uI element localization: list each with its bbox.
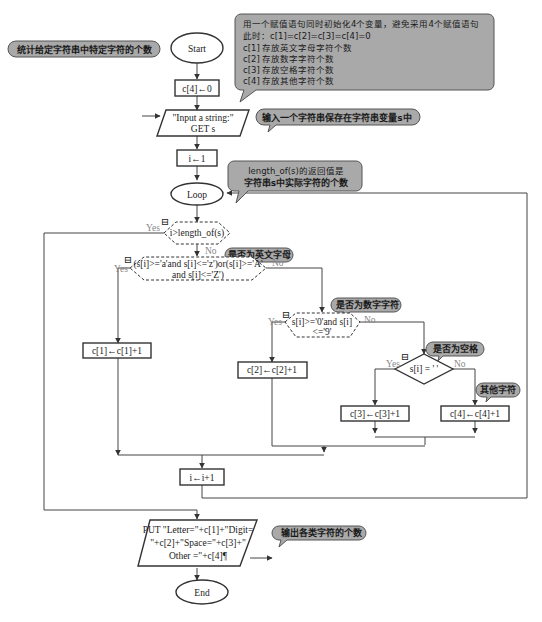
space-condition-decision[interactable]: s[i] = ' ' Yes No ⊟	[386, 352, 466, 384]
output-line-1: PUT "Letter="+c[1]+"Digit=	[143, 525, 254, 535]
length-note-bubble: length_of(s)的返回值是 字符串s中实际字符的个数	[228, 161, 362, 203]
inc-c1-box[interactable]: c[1]←c[1]+1	[83, 343, 151, 358]
length-note-line: 字符串s中实际字符的个数	[244, 177, 349, 188]
init-note-line: c[1] 存放英文字母字符个数	[243, 43, 352, 53]
output-note-bubble: 输出各类字符的个数	[272, 526, 366, 547]
letter-condition-decision[interactable]: (s[i]>='a'and s[i]<='z')or(s[i]>='A' and…	[114, 255, 284, 281]
init-note-line: 用一个赋值语句同时初始化4个变量，避免采用4个赋值语句	[243, 19, 479, 29]
collapse-icon[interactable]: ⊟	[282, 310, 290, 320]
collapse-icon[interactable]: ⊟	[161, 217, 169, 227]
inc-c3-box[interactable]: c[3]←c[3]+1	[341, 406, 409, 421]
end-label: End	[194, 588, 210, 598]
yes-label: Yes	[386, 359, 400, 369]
input-io-box[interactable]: "Input a string:" GET s	[157, 110, 249, 136]
inc-c1-label: c[1]←c[1]+1	[92, 346, 142, 356]
start-terminal[interactable]: Start	[171, 33, 223, 63]
no-label: No	[272, 258, 284, 268]
other-note-text: 其他字符	[480, 384, 516, 395]
start-label: Start	[188, 44, 206, 54]
loop-terminal[interactable]: Loop	[171, 183, 223, 205]
init-note-bubble: 用一个赋值语句同时初始化4个变量，避免采用4个赋值语句 此时：c[1]=c[2]…	[235, 14, 494, 102]
init-process-box[interactable]: c[4]←0	[175, 80, 219, 96]
input-line-2: GET s	[191, 124, 216, 134]
assign-i-box[interactable]: i←1	[177, 150, 217, 166]
inc-c4-box[interactable]: c[4]←c[4]+1	[441, 406, 509, 421]
loop-label: Loop	[187, 190, 207, 200]
output-note-text: 输出各类字符的个数	[281, 527, 363, 538]
length-note-line: length_of(s)的返回值是	[248, 166, 344, 176]
inc-c4-label: c[4]←c[4]+1	[450, 409, 500, 419]
flowchart-canvas: 统计给定字符串中特定字符的个数 Start 用一个赋值语句同时初始化4个变量，避…	[0, 0, 542, 622]
letter-condition-line-1: (s[i]>='a'and s[i]<='z')or(s[i]>='A'	[133, 259, 262, 270]
yes-label: Yes	[114, 264, 128, 274]
letter-condition-line-2: and s[i]<='Z')	[172, 270, 224, 281]
digit-note-text: 是否为数字字符	[335, 299, 399, 310]
increment-i-box[interactable]: i←i+1	[180, 469, 224, 485]
output-line-2: "+c[2]+"Space="+c[3]+"	[150, 538, 246, 548]
no-label: No	[205, 246, 217, 256]
space-note-text: 是否为空格	[432, 343, 479, 354]
inc-c2-label: c[2]←c[2]+1	[247, 365, 297, 375]
digit-condition-line-1: s[i]>='0'and s[i]	[292, 317, 352, 327]
no-label: No	[364, 315, 376, 325]
no-label: No	[454, 359, 466, 369]
init-note-line: c[2] 存放数字字符个数	[243, 54, 334, 64]
input-note-bubble: 输入一个字符串保存在字符串变量s中	[256, 109, 420, 132]
length-condition-decision[interactable]: i>length_of(s) Yes No ⊟	[146, 217, 230, 256]
space-condition-label: s[i] = ' '	[410, 364, 439, 374]
end-terminal[interactable]: End	[176, 580, 228, 604]
digit-condition-decision[interactable]: s[i]>='0'and s[i] <='9' Yes No ⊟	[268, 310, 376, 337]
input-note-text: 输入一个字符串保存在字符串变量s中	[262, 112, 411, 123]
yes-label: Yes	[146, 223, 160, 233]
input-line-1: "Input a string:"	[172, 113, 233, 123]
digit-condition-line-2: <='9'	[313, 327, 332, 337]
inc-c2-box[interactable]: c[2]←c[2]+1	[238, 362, 307, 378]
increment-i-label: i←i+1	[190, 473, 215, 483]
output-line-3: Other ="+c[4]¶	[169, 551, 228, 561]
init-label: c[4]←0	[182, 84, 212, 94]
init-note-line: 此时：c[1]=c[2]=c[3]=c[4]=0	[243, 31, 371, 41]
title-comment-bubble: 统计给定字符串中特定字符的个数	[8, 41, 160, 57]
init-note-line: c[3] 存放空格字符个数	[243, 65, 334, 75]
assign-i-label: i←1	[189, 154, 206, 164]
yes-label: Yes	[268, 317, 282, 327]
init-note-line: c[4] 存放其他字符个数	[243, 76, 334, 86]
inc-c3-label: c[3]←c[3]+1	[350, 409, 400, 419]
collapse-icon[interactable]: ⊟	[401, 352, 409, 362]
other-note-bubble: 其他字符	[476, 383, 520, 402]
length-condition-label: i>length_of(s)	[170, 228, 224, 239]
title-text: 统计给定字符串中特定字符的个数	[17, 44, 153, 55]
collapse-icon[interactable]: ⊟	[124, 255, 132, 265]
output-io-box[interactable]: PUT "Letter="+c[1]+"Digit= "+c[2]+"Space…	[138, 520, 257, 566]
